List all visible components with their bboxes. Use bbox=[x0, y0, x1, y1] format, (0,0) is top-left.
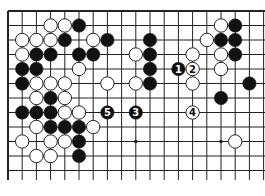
white-stone-disc bbox=[16, 48, 29, 61]
black-stone bbox=[143, 62, 156, 75]
black-stone bbox=[44, 120, 57, 133]
black-stone bbox=[72, 120, 85, 133]
black-stone bbox=[214, 33, 227, 46]
white-stone-disc bbox=[44, 77, 57, 90]
black-stone-disc bbox=[44, 48, 57, 61]
black-stone bbox=[229, 19, 242, 32]
white-stone bbox=[30, 120, 43, 133]
white-stone-disc bbox=[129, 48, 142, 61]
black-stone-disc bbox=[143, 48, 156, 61]
white-stone bbox=[16, 48, 29, 61]
white-stone bbox=[30, 91, 43, 104]
black-stone bbox=[229, 33, 242, 46]
black-stone-disc bbox=[72, 149, 85, 162]
white-stone bbox=[16, 135, 29, 148]
white-stone-disc bbox=[16, 135, 29, 148]
numbered-black-stone: 1 bbox=[172, 62, 185, 75]
white-stone bbox=[44, 77, 57, 90]
white-stone-disc bbox=[72, 106, 85, 119]
white-stone-disc bbox=[229, 135, 242, 148]
black-stone-disc bbox=[243, 77, 256, 90]
white-stone bbox=[214, 48, 227, 61]
white-stone-disc bbox=[214, 19, 227, 32]
black-stone-disc bbox=[101, 33, 114, 46]
white-stone-disc bbox=[200, 33, 213, 46]
white-stone bbox=[30, 149, 43, 162]
black-stone-disc bbox=[72, 19, 85, 32]
black-stone-disc bbox=[143, 77, 156, 90]
white-stone-disc bbox=[58, 91, 71, 104]
white-stone bbox=[44, 19, 57, 32]
white-stone-disc bbox=[16, 33, 29, 46]
white-stone bbox=[186, 77, 199, 90]
white-stone-disc bbox=[44, 135, 57, 148]
black-stone bbox=[72, 135, 85, 148]
black-stone-disc bbox=[30, 106, 43, 119]
white-stone-disc bbox=[30, 77, 43, 90]
black-stone-disc bbox=[229, 19, 242, 32]
white-stone bbox=[229, 135, 242, 148]
black-stone-disc bbox=[44, 106, 57, 119]
white-stone bbox=[44, 135, 57, 148]
black-stone-disc bbox=[30, 62, 43, 75]
white-stone bbox=[200, 33, 213, 46]
white-stone bbox=[129, 48, 142, 61]
white-stone-disc bbox=[44, 149, 57, 162]
white-stone-disc bbox=[101, 77, 114, 90]
white-stone-disc bbox=[58, 77, 71, 90]
black-stone bbox=[143, 48, 156, 61]
white-stone-disc bbox=[58, 19, 71, 32]
white-stone-disc bbox=[30, 33, 43, 46]
white-stone-disc bbox=[129, 77, 142, 90]
white-stone bbox=[72, 106, 85, 119]
black-stone-disc bbox=[229, 33, 242, 46]
white-stone-disc bbox=[186, 77, 199, 90]
black-stone bbox=[58, 120, 71, 133]
white-stone bbox=[30, 33, 43, 46]
white-stone bbox=[58, 77, 71, 90]
black-stone bbox=[16, 62, 29, 75]
numbered-black-stone: 5 bbox=[101, 106, 114, 119]
white-stone bbox=[30, 77, 43, 90]
black-stone bbox=[143, 33, 156, 46]
white-stone bbox=[58, 135, 71, 148]
black-stone-disc bbox=[44, 91, 57, 104]
white-stone-disc bbox=[87, 33, 100, 46]
black-stone-disc bbox=[16, 62, 29, 75]
black-stone-disc bbox=[229, 48, 242, 61]
black-stone bbox=[44, 106, 57, 119]
black-stone-disc bbox=[72, 48, 85, 61]
black-stone-disc bbox=[16, 106, 29, 119]
black-stone-disc bbox=[214, 33, 227, 46]
move-number-label: 3 bbox=[132, 107, 139, 118]
black-stone-disc bbox=[30, 48, 43, 61]
white-stone-disc bbox=[44, 19, 57, 32]
white-stone-disc bbox=[58, 106, 71, 119]
white-stone bbox=[186, 48, 199, 61]
white-stone bbox=[129, 77, 142, 90]
white-stone bbox=[101, 77, 114, 90]
white-stone bbox=[44, 149, 57, 162]
white-stone-disc bbox=[87, 120, 100, 133]
white-stone-disc bbox=[30, 91, 43, 104]
star-point bbox=[134, 140, 138, 144]
move-number-label: 2 bbox=[189, 64, 196, 75]
black-stone bbox=[214, 91, 227, 104]
white-stone bbox=[72, 62, 85, 75]
white-stone-disc bbox=[30, 149, 43, 162]
black-stone bbox=[72, 19, 85, 32]
white-stone-disc bbox=[214, 62, 227, 75]
black-stone bbox=[16, 77, 29, 90]
black-stone bbox=[72, 149, 85, 162]
white-stone bbox=[16, 33, 29, 46]
black-stone bbox=[87, 48, 100, 61]
black-stone bbox=[44, 48, 57, 61]
black-stone-disc bbox=[72, 120, 85, 133]
black-stone-disc bbox=[214, 91, 227, 104]
numbered-black-stone: 3 bbox=[129, 106, 142, 119]
white-stone bbox=[87, 120, 100, 133]
numbered-white-stone: 2 bbox=[186, 62, 199, 75]
black-stone-disc bbox=[87, 48, 100, 61]
white-stone bbox=[58, 91, 71, 104]
go-board[interactable]: 12534 bbox=[0, 0, 265, 196]
